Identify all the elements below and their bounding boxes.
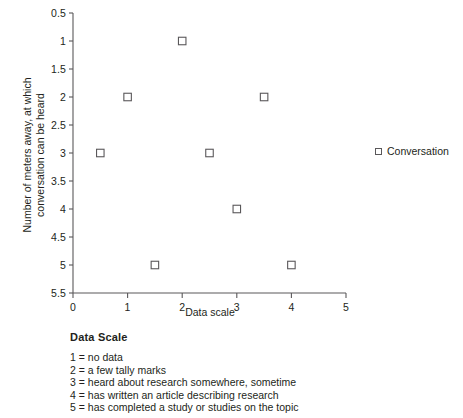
series-legend: Conversation <box>375 145 449 157</box>
y-axis-ticks <box>69 13 73 293</box>
y-axis-tick-label: 5.5 <box>28 287 66 299</box>
x-axis-ticks <box>73 293 346 298</box>
scatter-chart: 0.511.522.533.544.555.5 012345 Number of… <box>0 0 463 418</box>
data-scale-key-item: 4 = has written an article describing re… <box>70 389 299 402</box>
data-point-marker <box>233 205 241 213</box>
data-scale-key-item: 5 = has completed a study or studies on … <box>70 401 299 414</box>
data-point-marker <box>260 93 268 101</box>
data-point-marker <box>97 149 105 157</box>
data-scale-key-item: 3 = heard about research somewhere, some… <box>70 376 299 389</box>
y-axis-tick-label: 5 <box>28 259 66 271</box>
y-axis-title: Number of meters away, at which conversa… <box>8 0 60 60</box>
data-point-marker <box>178 37 186 45</box>
data-point-marker <box>288 261 296 269</box>
y-axis-title-text: Number of meters away, at which conversa… <box>21 60 47 250</box>
data-scale-key-item: 1 = no data <box>70 351 299 364</box>
data-point-marker <box>206 149 214 157</box>
data-scale-key-item: 2 = a few tally marks <box>70 364 299 377</box>
data-point-markers <box>97 37 296 269</box>
data-point-marker <box>124 93 132 101</box>
data-point-marker <box>151 261 159 269</box>
legend-square-icon <box>375 148 382 155</box>
data-scale-key-list: 1 = no data2 = a few tally marks3 = hear… <box>70 351 299 414</box>
legend-series-label: Conversation <box>387 145 449 157</box>
data-scale-key-title: Data Scale <box>70 331 299 343</box>
data-scale-key: Data Scale 1 = no data2 = a few tally ma… <box>70 331 299 414</box>
x-axis-title: Data scale <box>0 306 420 318</box>
